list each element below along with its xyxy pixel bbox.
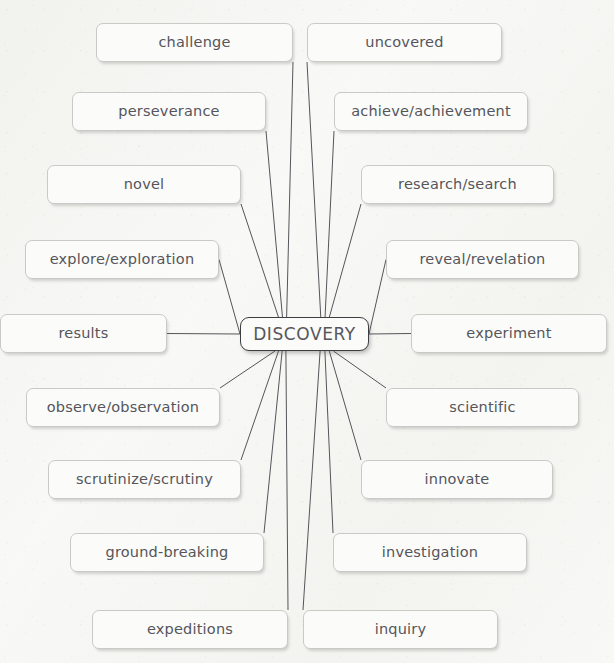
node-label-scientific: scientific	[449, 400, 516, 415]
edge-center-to-challenge	[287, 62, 293, 317]
node-label-inquiry: inquiry	[375, 622, 427, 637]
node-label-novel: novel	[124, 177, 165, 192]
edge-center-to-ground	[264, 351, 282, 533]
edge-center-to-observe	[220, 351, 275, 388]
node-label-challenge: challenge	[158, 35, 230, 50]
node-label-results: results	[59, 326, 109, 341]
node-experiment[interactable]: experiment	[411, 314, 607, 353]
node-inquiry[interactable]: inquiry	[303, 610, 498, 649]
node-observe[interactable]: observe/observation	[26, 388, 220, 427]
node-scrutinize[interactable]: scrutinize/scrutiny	[48, 460, 241, 499]
edge-center-to-novel	[241, 204, 278, 317]
node-reveal[interactable]: reveal/revelation	[386, 240, 579, 279]
node-achieve[interactable]: achieve/achievement	[334, 92, 528, 131]
edge-center-to-uncovered	[307, 62, 321, 317]
edge-center-to-inquiry	[303, 351, 320, 610]
node-uncovered[interactable]: uncovered	[307, 23, 502, 62]
node-label-research: research/search	[398, 177, 517, 192]
node-label-innovate: innovate	[425, 472, 490, 487]
node-label-perseverance: perseverance	[118, 104, 219, 119]
edge-center-to-perseverance	[266, 131, 282, 317]
node-label-scrutinize: scrutinize/scrutiny	[76, 472, 213, 487]
mind-map-canvas: challengeuncoveredperseveranceachieve/ac…	[0, 0, 614, 663]
edge-center-to-innovate	[329, 351, 361, 460]
center-node-discovery[interactable]: DISCOVERY	[240, 317, 369, 351]
node-innovate[interactable]: innovate	[361, 460, 553, 499]
edge-center-to-achieve	[325, 131, 334, 317]
edge-center-to-reveal	[369, 260, 386, 335]
node-label-expeditions: expeditions	[147, 622, 233, 637]
node-label-observe: observe/observation	[47, 400, 199, 415]
node-challenge[interactable]: challenge	[96, 23, 293, 62]
node-label-ground: ground-breaking	[105, 545, 228, 560]
node-label-investigation: investigation	[382, 545, 478, 560]
node-explore[interactable]: explore/exploration	[25, 240, 219, 279]
node-novel[interactable]: novel	[47, 165, 241, 204]
node-research[interactable]: research/search	[361, 165, 554, 204]
center-node-label: DISCOVERY	[253, 325, 356, 342]
node-label-reveal: reveal/revelation	[419, 252, 545, 267]
edge-center-to-experiment	[369, 334, 411, 335]
edge-center-to-explore	[219, 260, 240, 335]
node-label-explore: explore/exploration	[50, 252, 195, 267]
edge-center-to-scrutinize	[241, 351, 279, 460]
node-expeditions[interactable]: expeditions	[92, 610, 288, 649]
node-results[interactable]: results	[0, 314, 167, 353]
edge-center-to-results	[167, 334, 240, 335]
node-perseverance[interactable]: perseverance	[72, 92, 266, 131]
edge-center-to-investigation	[325, 351, 333, 533]
node-label-experiment: experiment	[466, 326, 551, 341]
edge-center-to-research	[329, 204, 361, 317]
node-ground[interactable]: ground-breaking	[70, 533, 264, 572]
node-label-uncovered: uncovered	[365, 35, 443, 50]
node-label-achieve: achieve/achievement	[351, 104, 511, 119]
edge-center-to-expeditions	[286, 351, 288, 610]
edge-center-to-scientific	[333, 351, 386, 388]
node-investigation[interactable]: investigation	[333, 533, 527, 572]
node-scientific[interactable]: scientific	[386, 388, 579, 427]
